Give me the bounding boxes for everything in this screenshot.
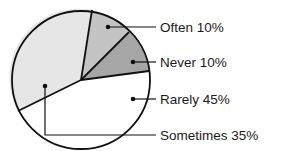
label-often: Often 10% — [160, 20, 224, 35]
label-never: Never 10% — [160, 55, 227, 70]
pie-chart: Often 10% Never 10% Rarely 45% Sometimes… — [0, 0, 283, 151]
label-rarely: Rarely 45% — [160, 92, 230, 107]
label-sometimes: Sometimes 35% — [160, 128, 258, 143]
